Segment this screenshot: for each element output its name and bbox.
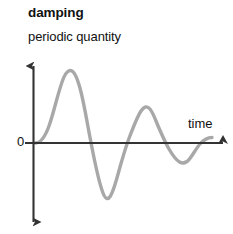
x-axis-label: time [188, 116, 213, 131]
origin-label: 0 [17, 134, 24, 149]
damping-figure: damping periodic quantity 0 time [0, 0, 233, 234]
damped-oscillation-curve [36, 71, 213, 199]
